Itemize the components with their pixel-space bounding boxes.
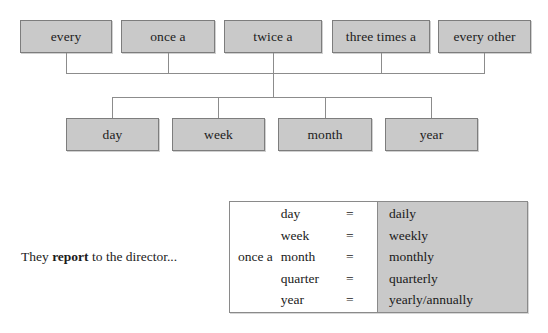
connector-drop-year: [431, 97, 432, 118]
connector-drop-three-times-a: [381, 53, 382, 73]
connector-drop-every: [66, 53, 67, 73]
legend-values-column: daily weekly monthly quarterly yearly/an…: [377, 202, 527, 312]
legend-term: week: [281, 225, 343, 247]
tree-node-label: day: [103, 128, 123, 142]
legend-term-row: quarter =: [281, 268, 357, 290]
tree-node-label: every other: [453, 30, 515, 44]
legend-value: daily: [389, 203, 527, 225]
sentence-text-before: They: [21, 249, 52, 264]
legend-term: quarter: [281, 268, 343, 290]
tree-node-label: three times a: [346, 30, 416, 44]
connector-drop-month: [325, 97, 326, 118]
legend-term: month: [281, 246, 343, 268]
legend-terms-column: once a day = week = month = quarter =: [230, 202, 377, 312]
frequency-legend-table: once a day = week = month = quarter =: [229, 201, 528, 313]
tree-node-once-a[interactable]: once a: [121, 20, 215, 53]
equals-sign: =: [343, 203, 357, 225]
tree-node-month[interactable]: month: [278, 118, 372, 151]
legend-value: weekly: [389, 225, 527, 247]
tree-node-label: month: [307, 128, 342, 142]
example-sentence: They report to the director...: [21, 249, 177, 265]
sentence-text-after: to the director...: [89, 249, 177, 264]
figure-root: every once a twice a three times a every…: [0, 0, 548, 333]
legend-term-row: year =: [281, 289, 357, 311]
tree-node-year[interactable]: year: [385, 118, 478, 151]
tree-node-label: twice a: [253, 30, 292, 44]
tree-node-label: every: [51, 30, 81, 44]
equals-sign: =: [343, 246, 357, 268]
sentence-text-bold: report: [52, 249, 89, 264]
legend-prefix-label: once a: [238, 249, 281, 265]
legend-terms-list: day = week = month = quarter = year =: [281, 203, 357, 311]
equals-sign: =: [343, 268, 357, 290]
legend-term: day: [281, 203, 343, 225]
legend-term-row: day =: [281, 203, 357, 225]
equals-sign: =: [343, 289, 357, 311]
legend-term: year: [281, 289, 343, 311]
tree-node-week[interactable]: week: [172, 118, 265, 151]
tree-node-three-times-a[interactable]: three times a: [332, 20, 430, 53]
tree-node-day[interactable]: day: [66, 118, 159, 151]
tree-node-label: year: [420, 128, 444, 142]
legend-term-row: week =: [281, 225, 357, 247]
tree-node-twice-a[interactable]: twice a: [224, 20, 322, 53]
legend-value: yearly/annually: [389, 289, 527, 311]
connector-lower-bus: [112, 97, 432, 98]
connector-drop-once-a: [168, 53, 169, 73]
connector-upper-bus: [66, 73, 485, 74]
connector-drop-every-other: [484, 53, 485, 73]
connector-drop-week: [218, 97, 219, 118]
connector-drop-twice-a: [273, 53, 274, 97]
equals-sign: =: [343, 225, 357, 247]
tree-node-every-other[interactable]: every other: [438, 20, 531, 53]
legend-term-row: month =: [281, 246, 357, 268]
legend-value: quarterly: [389, 268, 527, 290]
tree-node-label: week: [204, 128, 233, 142]
legend-value: monthly: [389, 246, 527, 268]
connector-drop-day: [112, 97, 113, 118]
tree-node-every[interactable]: every: [20, 20, 112, 53]
tree-node-label: once a: [150, 30, 185, 44]
